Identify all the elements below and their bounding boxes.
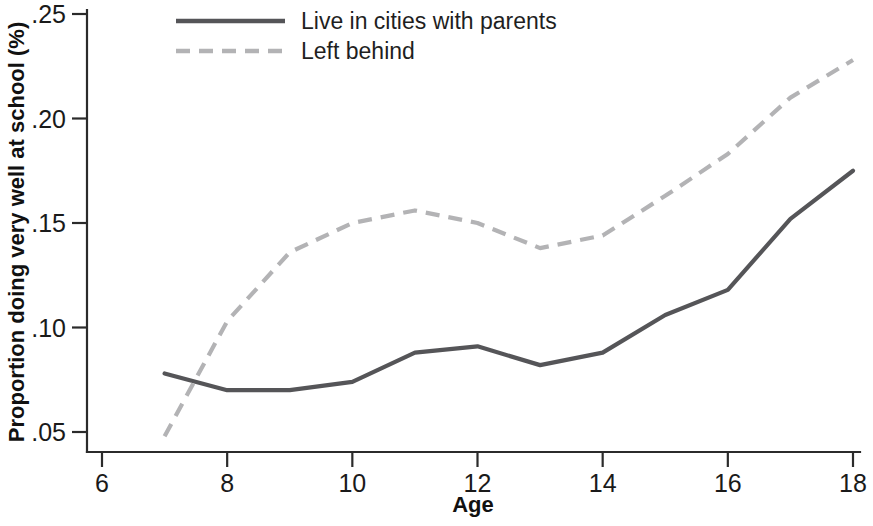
x-tick-label: 14 (589, 469, 617, 497)
y-tick-label: .20 (31, 105, 66, 133)
x-tick-label: 8 (220, 469, 234, 497)
x-tick-label: 6 (95, 469, 109, 497)
y-axis-ticks: .05.10.15.20.25 (31, 0, 87, 446)
series-group (165, 60, 853, 436)
x-axis-ticks: 681012141618 (95, 452, 867, 497)
legend-label-0: Live in cities with parents (301, 8, 557, 34)
y-tick-label: .05 (31, 418, 66, 446)
x-tick-label: 10 (338, 469, 366, 497)
y-axis-title: Proportion doing very well at school (%) (4, 22, 29, 442)
series-line-live-in-cities-with-parents (165, 171, 853, 390)
line-chart-canvas: .05.10.15.20.25 681012141618 Proportion … (0, 0, 873, 526)
x-tick-label: 18 (839, 469, 867, 497)
x-tick-label: 16 (714, 469, 742, 497)
series-line-left-behind (165, 60, 853, 436)
chart-figure: .05.10.15.20.25 681012141618 Proportion … (0, 0, 873, 526)
y-tick-label: .25 (31, 0, 66, 28)
legend: Live in cities with parents Left behind (176, 8, 557, 64)
legend-label-1: Left behind (301, 38, 415, 64)
y-tick-label: .10 (31, 314, 66, 342)
y-tick-label: .15 (31, 209, 66, 237)
x-axis-title: Age (452, 492, 494, 517)
